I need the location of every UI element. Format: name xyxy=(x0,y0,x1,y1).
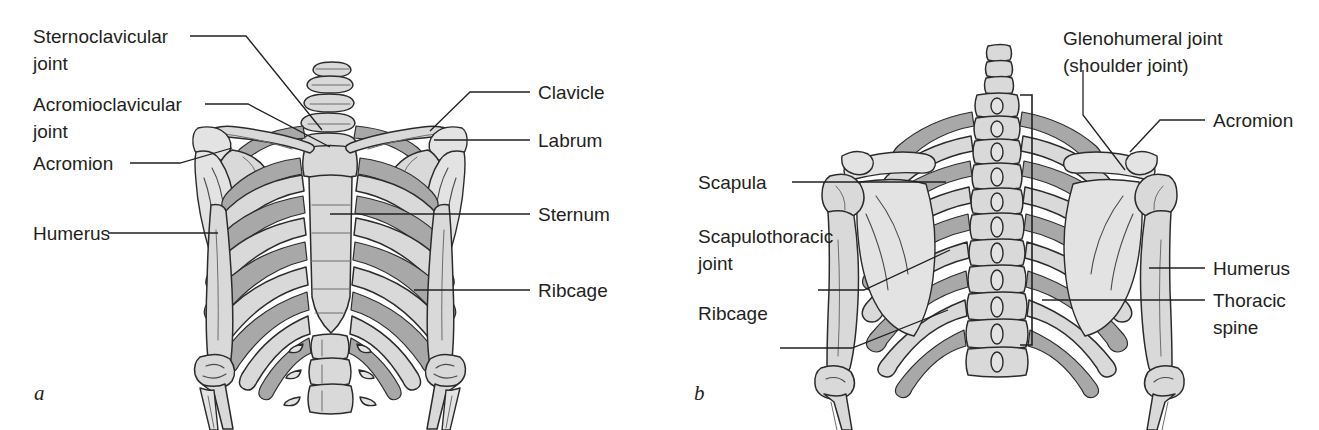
panel-a-illustration: Sternoclavicular joint Acromioclavicular… xyxy=(0,0,660,430)
leader-clavicle xyxy=(430,92,530,131)
label-labrum: Labrum xyxy=(538,130,602,151)
label-humerus: Humerus xyxy=(33,223,110,244)
label-clavicle: Clavicle xyxy=(538,82,605,103)
cervical-spine-posterior xyxy=(985,45,1014,95)
lumbar-spine xyxy=(284,334,376,414)
label-acromioclavicular-joint-line1: Acromioclavicular xyxy=(33,94,183,115)
label-acromion: Acromion xyxy=(33,153,113,174)
label-glenohumeral-joint-line2: (shoulder joint) xyxy=(1063,55,1189,76)
anterior-skeleton xyxy=(193,62,467,430)
leader-acromion-b xyxy=(1130,120,1205,152)
label-scapulothoracic-joint-line2: joint xyxy=(697,253,734,274)
panel-b-posterior-view: Scapula Scapulothoracic joint Ribcage Gl… xyxy=(660,0,1319,430)
label-sternum: Sternum xyxy=(538,204,610,225)
humerus-left xyxy=(195,205,235,430)
label-ribcage: Ribcage xyxy=(538,280,608,301)
label-scapulothoracic-joint-line1: Scapulothoracic xyxy=(698,226,833,247)
label-sternoclavicular-joint-line2: joint xyxy=(32,53,69,74)
label-sternoclavicular-joint-line1: Sternoclavicular xyxy=(33,26,169,47)
humerus-right-posterior xyxy=(1135,174,1184,430)
panel-a-caption: a xyxy=(34,381,45,405)
label-acromioclavicular-joint-line2: joint xyxy=(32,121,69,142)
label-glenohumeral-joint-line1: Glenohumeral joint xyxy=(1063,28,1223,49)
humerus-right xyxy=(425,205,465,430)
humerus-left-posterior xyxy=(815,174,864,430)
label-thoracic-spine-line1: Thoracic xyxy=(1213,290,1286,311)
anatomy-figure: Sternoclavicular joint Acromioclavicular… xyxy=(0,0,1319,430)
sternum-bone xyxy=(303,146,358,334)
label-ribcage-b: Ribcage xyxy=(698,303,768,324)
label-thoracic-spine-line2: spine xyxy=(1213,317,1258,338)
label-humerus-b: Humerus xyxy=(1213,258,1290,279)
panel-a-anterior-view: Sternoclavicular joint Acromioclavicular… xyxy=(0,0,660,430)
panel-b-caption: b xyxy=(694,381,705,405)
cervical-spine xyxy=(300,62,356,153)
leader-sternoclavicular xyxy=(190,36,322,130)
label-scapula: Scapula xyxy=(698,172,767,193)
posterior-skeleton xyxy=(815,45,1184,430)
label-acromion-b: Acromion xyxy=(1213,110,1293,131)
panel-b-illustration: Scapula Scapulothoracic joint Ribcage Gl… xyxy=(660,0,1319,430)
thoracic-spine-bones xyxy=(966,93,1028,377)
